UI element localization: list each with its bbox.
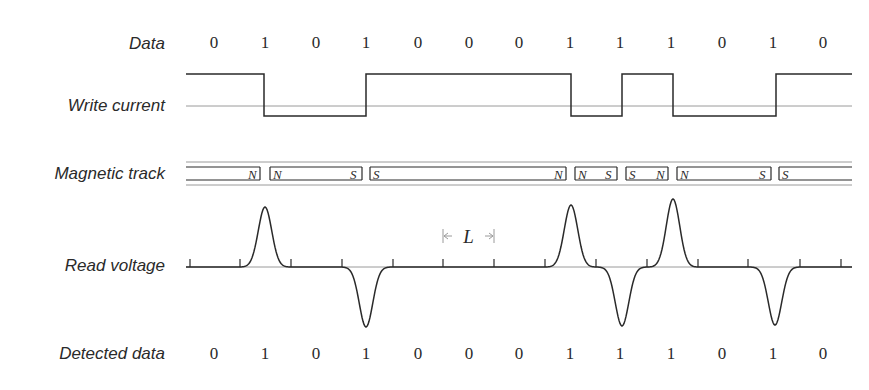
magnetic-track: NNSSNNSSNNSS	[186, 162, 852, 185]
pole-label: N	[679, 167, 690, 182]
pole-label: N	[272, 167, 283, 182]
pole-label: S	[759, 167, 766, 182]
pole-label: S	[782, 167, 789, 182]
write-current-waveform	[186, 74, 852, 116]
magnet-segment: SN	[370, 167, 566, 182]
magnet-segment: N	[186, 167, 260, 182]
spacing-label: L	[462, 226, 474, 247]
pole-label: N	[577, 167, 588, 182]
pole-label: S	[629, 167, 636, 182]
bit-spacing-marker: L	[443, 226, 494, 247]
arrow-right-icon	[485, 233, 493, 239]
write-current-signal	[186, 74, 852, 116]
pole-label: S	[350, 167, 357, 182]
recording-diagram: NNSSNNSSNNSS L	[0, 0, 869, 390]
read-voltage-waveform: L	[186, 199, 852, 327]
pole-label: S	[605, 167, 612, 182]
magnet-segment: NS	[677, 167, 771, 182]
pole-label: N	[247, 167, 258, 182]
arrow-left-icon	[444, 233, 452, 239]
pole-label: S	[373, 167, 380, 182]
magnet-segment: SN	[626, 167, 668, 182]
read-voltage-signal	[186, 199, 852, 327]
pole-label: N	[655, 167, 666, 182]
magnet-segment: S	[779, 167, 852, 182]
magnet-segment: NS	[270, 167, 362, 182]
magnet-segment: NS	[575, 167, 617, 182]
pole-label: N	[553, 167, 564, 182]
